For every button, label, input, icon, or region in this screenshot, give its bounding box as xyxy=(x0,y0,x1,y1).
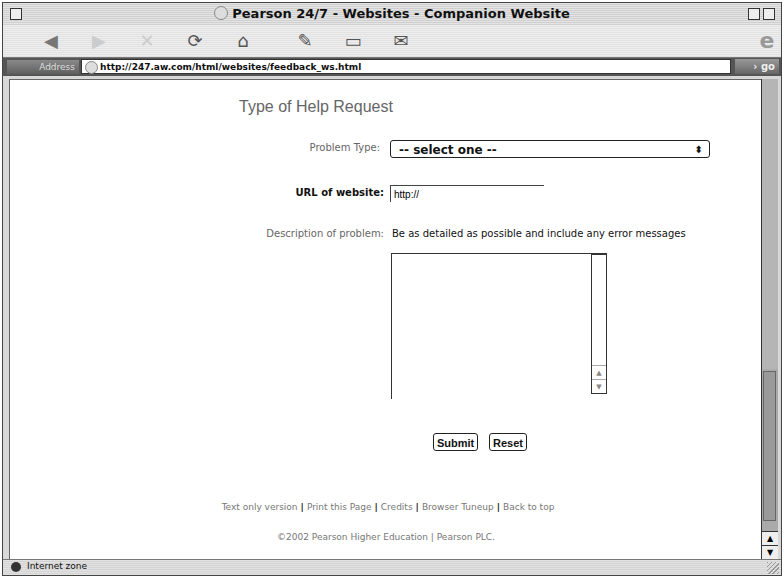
ie-logo-icon: e xyxy=(755,31,779,51)
description-hint: Be as detailed as possible and include a… xyxy=(392,228,686,239)
scroll-down-arrow-icon[interactable]: ▼ xyxy=(762,545,778,560)
browser-toolbar: ◀ ▶ ✕ ⟳ ⌂ ✎ ▭ ✉ e xyxy=(3,25,781,58)
address-input[interactable]: http://247.aw.com/html/websites/feedback… xyxy=(81,59,731,74)
status-bar: Internet zone xyxy=(3,559,781,575)
browser-window: Pearson 24/7 - Websites - Companion Webs… xyxy=(2,2,782,576)
separator: | xyxy=(416,502,419,512)
separator: | xyxy=(497,502,500,512)
autofill-pen-icon[interactable]: ✎ xyxy=(293,31,317,51)
url-label: URL of website: xyxy=(260,187,384,198)
submit-button[interactable]: Submit xyxy=(433,433,478,451)
window-title: Pearson 24/7 - Websites - Companion Webs… xyxy=(3,6,781,21)
address-url: http://247.aw.com/html/websites/feedback… xyxy=(100,62,361,72)
title-bar[interactable]: Pearson 24/7 - Websites - Companion Webs… xyxy=(3,3,781,26)
print-icon[interactable]: ▭ xyxy=(341,31,365,51)
footer-link-print[interactable]: Print this Page xyxy=(307,502,372,512)
stop-x-icon[interactable]: ✕ xyxy=(135,31,159,51)
scroll-up-arrow-icon[interactable]: ▲ xyxy=(762,531,778,546)
window-controls xyxy=(748,8,775,20)
page-heading: Type of Help Request xyxy=(239,98,393,116)
ie-page-icon xyxy=(214,6,228,20)
collapse-box-icon[interactable] xyxy=(763,8,775,20)
footer-links: Text only version|Print this Page|Credit… xyxy=(10,502,762,512)
forward-arrow-icon[interactable]: ▶ xyxy=(87,31,111,51)
description-textarea[interactable]: ▲ ▼ xyxy=(391,253,607,399)
separator: | xyxy=(375,502,378,512)
scroll-down-icon[interactable]: ▼ xyxy=(592,379,606,394)
address-bar: Address http://247.aw.com/html/websites/… xyxy=(3,58,781,76)
scroll-track[interactable] xyxy=(762,79,778,369)
problem-type-value: -- select one -- xyxy=(399,143,497,157)
problem-type-label: Problem Type: xyxy=(260,142,380,153)
mail-icon[interactable]: ✉ xyxy=(389,31,413,51)
footer-link-back-to-top[interactable]: Back to top xyxy=(503,502,554,512)
page-icon xyxy=(85,61,98,74)
reset-button[interactable]: Reset xyxy=(489,433,527,451)
footer-link-text-only[interactable]: Text only version xyxy=(222,502,298,512)
security-zone: Internet zone xyxy=(27,561,87,571)
footer-link-browser-tuneup[interactable]: Browser Tuneup xyxy=(422,502,494,512)
textarea-scrollbar[interactable]: ▲ ▼ xyxy=(591,254,607,394)
page-content: Type of Help Request Problem Type: -- se… xyxy=(9,79,763,563)
url-input[interactable]: http:// xyxy=(390,185,544,202)
scroll-thumb[interactable] xyxy=(763,371,776,521)
go-button[interactable]: › go xyxy=(735,59,779,74)
description-label: Description of problem: xyxy=(210,228,384,239)
problem-type-select[interactable]: -- select one --⬍ xyxy=(390,140,710,158)
updown-arrows-icon: ⬍ xyxy=(695,141,703,159)
separator: | xyxy=(301,502,304,512)
copyright: ©2002 Pearson Higher Education | Pearson… xyxy=(10,532,762,542)
address-label: Address xyxy=(7,60,79,74)
back-arrow-icon[interactable]: ◀ xyxy=(39,31,63,51)
zoom-box-icon[interactable] xyxy=(748,8,760,20)
footer-link-credits[interactable]: Credits xyxy=(381,502,413,512)
globe-icon xyxy=(11,562,21,572)
window-title-text: Pearson 24/7 - Websites - Companion Webs… xyxy=(232,6,569,21)
scroll-up-icon[interactable]: ▲ xyxy=(592,365,606,380)
refresh-icon[interactable]: ⟳ xyxy=(183,31,207,51)
page-scrollbar[interactable]: ▲ ▼ xyxy=(761,79,778,561)
home-icon[interactable]: ⌂ xyxy=(231,31,255,51)
resize-grip-icon[interactable] xyxy=(767,562,779,574)
